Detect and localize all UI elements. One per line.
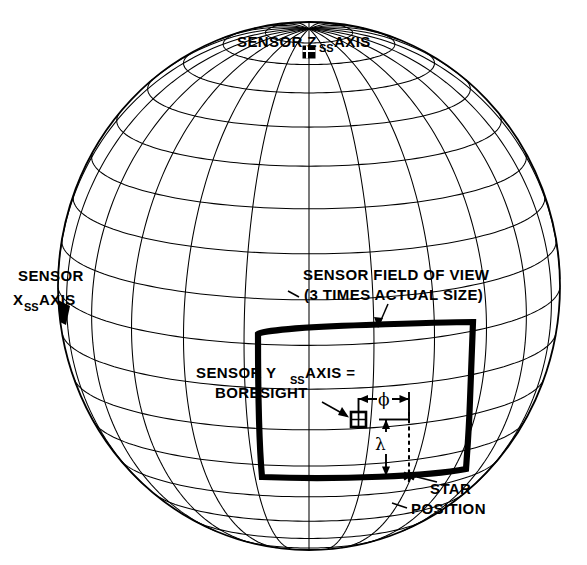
square-notch-h (303, 50, 316, 52)
sensor-z-axis-subscript: SS (319, 42, 334, 54)
boresight-label-suffix: AXIS = (305, 364, 355, 381)
lambda-symbol: λ (375, 434, 386, 454)
sensor-x-axis-prefix: X (13, 291, 23, 308)
sensor-x-axis-subscript: SS (24, 301, 39, 313)
fov-label-line1: SENSOR FIELD OF VIEW (303, 266, 490, 283)
fov-label-line2: (3 TIMES ACTUAL SIZE) (304, 286, 483, 303)
sensor-z-axis-label: SENSOR Z (237, 33, 317, 50)
sensor-z-axis-suffix: AXIS (334, 33, 371, 50)
boresight-label-line2: BORESIGHT (215, 384, 308, 401)
star-label-line1: STAR (430, 480, 471, 497)
sensor-fov-sphere-diagram: SENSOR Z SS AXIS SENSOR X SS AXIS SENSOR… (0, 0, 587, 565)
sensor-x-axis-label-line1: SENSOR (18, 267, 84, 284)
star-label-line2: POSITION (411, 500, 486, 517)
boresight-label-prefix: SENSOR Y (196, 364, 276, 381)
phi-symbol: ϕ (378, 389, 390, 409)
sensor-x-axis-suffix: AXIS (39, 291, 76, 308)
